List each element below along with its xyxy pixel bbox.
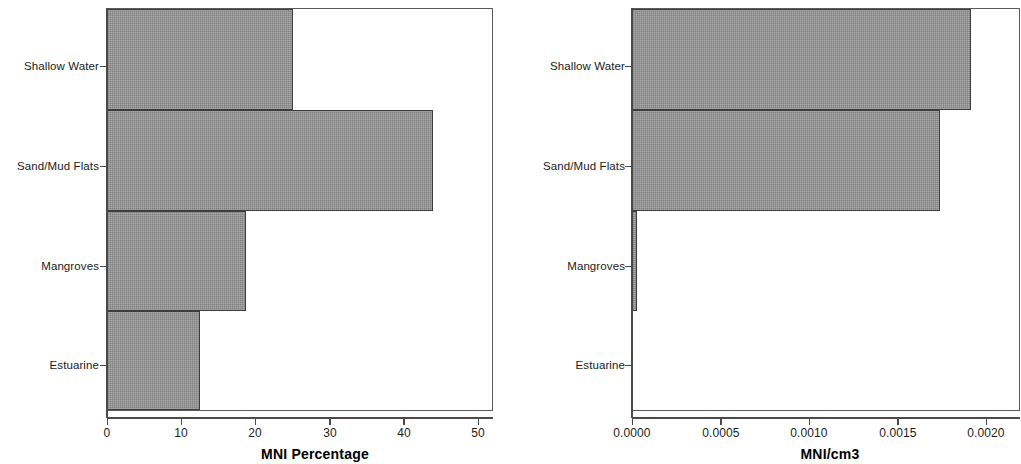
y-label-estuarine-right: Estuarine xyxy=(576,359,625,371)
y-label-sand-mud-flats-left: Sand/Mud Flats xyxy=(17,160,99,172)
y-tick-shallow-water-left xyxy=(100,66,107,68)
x-axis-line-right xyxy=(632,417,1020,419)
y-label-mangroves-right: Mangroves xyxy=(567,260,625,272)
bar-shallow-water-right xyxy=(632,9,971,110)
x-tick-label-50-left: 50 xyxy=(471,426,485,440)
x-tick-20-left xyxy=(255,418,257,425)
x-tick-30-left xyxy=(329,418,331,425)
y-tick-estuarine-left xyxy=(100,365,107,367)
x-tick-label-30-left: 30 xyxy=(323,426,337,440)
y-axis-line-right xyxy=(631,8,633,418)
y-label-mangroves-left: Mangroves xyxy=(41,260,99,272)
y-tick-shallow-water-right xyxy=(625,66,632,68)
chart-panel-mni-percentage: Shallow Water Sand/Mud Flats Mangroves E… xyxy=(0,0,510,464)
x-tick-label-0-0015-right: 0.0015 xyxy=(879,426,916,440)
x-tick-40-left xyxy=(403,418,405,425)
x-tick-0-0000-right xyxy=(632,418,634,425)
x-axis-line-left xyxy=(107,417,493,419)
x-tick-label-0-0005-right: 0.0005 xyxy=(702,426,739,440)
y-label-shallow-water-right: Shallow Water xyxy=(550,60,625,72)
y-axis-line-left xyxy=(106,8,108,418)
x-tick-label-20-left: 20 xyxy=(248,426,262,440)
y-label-shallow-water-left: Shallow Water xyxy=(24,60,99,72)
x-tick-0-0010-right xyxy=(809,418,811,425)
y-tick-mangroves-left xyxy=(100,266,107,268)
x-tick-label-0-0000-right: 0.0000 xyxy=(613,426,650,440)
x-tick-label-0-left: 0 xyxy=(104,426,111,440)
bar-sand-mud-flats-left xyxy=(107,110,433,211)
x-tick-0-0015-right xyxy=(897,418,899,425)
x-axis-title-right: MNI/cm3 xyxy=(801,446,860,462)
bar-estuarine-left xyxy=(107,311,200,410)
x-tick-label-40-left: 40 xyxy=(397,426,411,440)
y-tick-sand-mud-flats-right xyxy=(625,166,632,168)
x-tick-0-0020-right xyxy=(986,418,988,425)
y-tick-sand-mud-flats-left xyxy=(100,166,107,168)
bar-shallow-water-left xyxy=(107,9,293,110)
x-tick-label-0-0010-right: 0.0010 xyxy=(790,426,827,440)
y-tick-estuarine-right xyxy=(625,365,632,367)
bar-mangroves-left xyxy=(107,211,246,311)
chart-panel-mni-per-cm3: Shallow Water Sand/Mud Flats Mangroves E… xyxy=(510,0,1021,464)
y-label-estuarine-left: Estuarine xyxy=(50,359,99,371)
x-tick-10-left xyxy=(181,418,183,425)
y-label-sand-mud-flats-right: Sand/Mud Flats xyxy=(543,160,625,172)
y-tick-mangroves-right xyxy=(625,266,632,268)
x-tick-50-left xyxy=(478,418,480,425)
x-axis-title-left: MNI Percentage xyxy=(261,446,369,462)
x-tick-label-0-0020-right: 0.0020 xyxy=(967,426,1004,440)
x-tick-label-10-left: 10 xyxy=(174,426,188,440)
bar-chart-figure: Shallow Water Sand/Mud Flats Mangroves E… xyxy=(0,0,1021,464)
x-tick-0-left xyxy=(107,418,109,425)
bar-mangroves-right xyxy=(632,211,637,311)
bar-sand-mud-flats-right xyxy=(632,110,940,211)
x-tick-0-0005-right xyxy=(720,418,722,425)
